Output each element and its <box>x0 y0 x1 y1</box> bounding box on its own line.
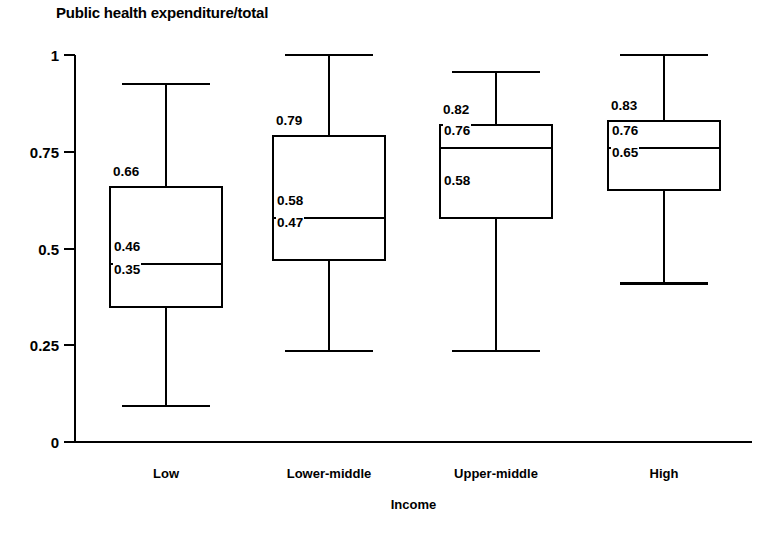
x-axis-title: Income <box>391 497 437 512</box>
x-axis-tick-label: High <box>650 466 679 481</box>
y-axis-tick-label: 0.75 <box>30 143 59 160</box>
x-axis-tick-label: Lower-middle <box>287 466 372 481</box>
box-q3-label: 0.83 <box>610 97 638 112</box>
y-axis-tick-label: 0 <box>51 434 59 451</box>
box-median-label: 0.76 <box>443 122 471 137</box>
box-q1-label: 0.58 <box>443 172 471 187</box>
box-median-label: 0.58 <box>276 192 304 207</box>
y-axis-tick-label: 0.25 <box>30 337 59 354</box>
box-q1-label: 0.65 <box>611 145 639 160</box>
y-axis-tick-label: 0.5 <box>38 240 59 257</box>
box-q3-label: 0.66 <box>112 163 140 178</box>
box-median-label: 0.46 <box>113 238 141 253</box>
box-plot-chart: Public health expenditure/total 00.250.5… <box>0 0 768 533</box>
box-q1-label: 0.47 <box>276 215 304 230</box>
box-median-label: 0.76 <box>611 122 639 137</box>
box-q1-label: 0.35 <box>113 261 141 276</box>
box-q3-label: 0.79 <box>275 113 303 128</box>
y-axis-tick-label: 1 <box>51 47 59 64</box>
box-q3-label: 0.82 <box>442 101 470 116</box>
x-axis-tick-label: Upper-middle <box>454 466 538 481</box>
x-axis-tick-label: Low <box>153 466 179 481</box>
